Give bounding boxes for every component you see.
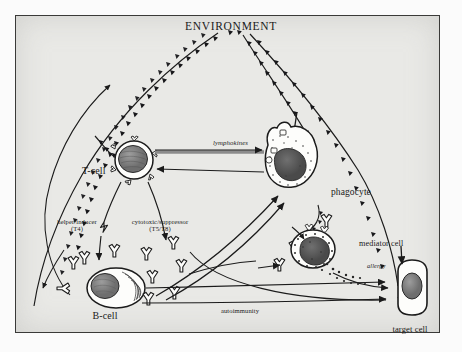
bcell-feedback-loop	[45, 85, 110, 295]
b-cell	[87, 268, 145, 308]
node-label-target-cell: target cell	[392, 325, 427, 334]
mediator-cell	[291, 224, 335, 268]
node-label-mediator-cell: mediator cell	[359, 240, 403, 249]
edge-label-lymphokines: lymphokines	[213, 139, 248, 146]
helper-inducer-line2: (T4)	[57, 226, 96, 233]
target-cell	[398, 260, 427, 315]
env-to-target-arrow	[401, 246, 402, 264]
node-label-b-cell: B-cell	[92, 311, 117, 322]
phagocyte	[265, 122, 317, 187]
antibody-to-mediator-arrow	[258, 265, 280, 268]
diagram-page: ENVIRONMENT T-cell lymphokines phagocyte…	[0, 0, 462, 352]
page-title: ENVIRONMENT	[185, 20, 277, 32]
autoimmunity-curve	[190, 252, 386, 300]
edge-label-cytotoxic-suppressor: cytotoxic/suppressor (T5/T8)	[132, 219, 189, 233]
phagocyte-to-tcell-arrow	[157, 169, 264, 172]
edge-label-autoimmunity: autoimmunity	[221, 308, 259, 315]
node-label-t-cell: T-cell	[82, 166, 106, 177]
diagram-canvas	[0, 0, 462, 352]
edge-label-allergy: allergy	[367, 263, 386, 270]
lymphokines-arrow	[155, 150, 264, 152]
node-label-phagocyte: phagocyte	[331, 188, 371, 198]
edge-label-helper-inducer: helper/inducer (T4)	[57, 219, 96, 233]
cytotoxic-suppressor-line2: (T5/T8)	[132, 226, 189, 233]
